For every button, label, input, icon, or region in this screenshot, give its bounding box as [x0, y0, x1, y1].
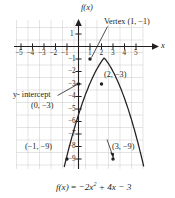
ytick-label-neg3: −3	[68, 81, 76, 88]
point-label-neg1-neg9: (−1, −9)	[25, 143, 52, 151]
ytick-label-neg2: −2	[68, 68, 76, 75]
ytick-label-1: 1	[70, 31, 74, 38]
xtick-label-neg3: −3	[38, 50, 46, 57]
equation-equals: =	[71, 182, 76, 192]
xtick-label-neg5: −5	[15, 50, 23, 57]
ytick-label-neg4: −4	[68, 93, 76, 100]
ytick-label-neg1: −1	[68, 56, 76, 63]
y-intercept-annotation-value: (0, −3)	[31, 102, 53, 110]
point-2-neg3	[100, 82, 103, 85]
xtick-label-5: 5	[134, 50, 138, 57]
equation-exponent: 2	[93, 181, 96, 187]
equation-rest: + 4x − 3	[99, 182, 132, 192]
y-intercept-annotation-label: y- intercept	[13, 91, 51, 99]
function-equation: f(x) = −2x2 + 4x − 3	[56, 181, 131, 192]
xtick-label-4: 4	[123, 50, 127, 57]
xtick-label-2: 2	[100, 50, 104, 57]
ytick-label-neg9: −9	[68, 156, 76, 163]
point-label-2-neg3: (2, −3)	[104, 71, 126, 79]
xtick-label-neg2: −2	[50, 50, 58, 57]
point-1-neg1	[88, 57, 91, 60]
vertex-annotation: Vertex (1, −1)	[104, 18, 150, 26]
point-0-neg3	[77, 82, 80, 85]
ytick-label-neg8: −8	[68, 143, 76, 150]
graph-figure: f(x) x −5 −4 −3 −2 −1 1 2 3 4 5 1 −1 −2 …	[0, 0, 175, 198]
xtick-label-neg4: −4	[27, 50, 35, 57]
xtick-label-1: 1	[88, 50, 92, 57]
ytick-label-neg6: −6	[68, 118, 76, 125]
x-axis-label: x	[161, 41, 165, 50]
ytick-label-neg7: −7	[68, 131, 76, 138]
point-label-3-neg9: (3, −9)	[112, 143, 134, 151]
xtick-label-3: 3	[111, 50, 115, 57]
y-axis-label: f(x)	[81, 3, 93, 12]
ytick-label-neg5: −5	[68, 106, 76, 113]
equation-fx: f(x)	[56, 182, 69, 192]
point-3-neg9	[111, 157, 114, 160]
equation-term1: −2x	[79, 182, 94, 192]
